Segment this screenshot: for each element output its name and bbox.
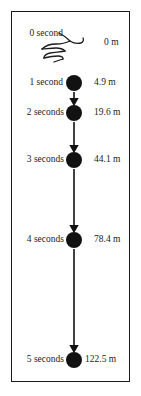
ball-marker <box>66 152 82 168</box>
ball-marker <box>66 75 82 91</box>
time-label-4: 4 seconds <box>27 235 64 245</box>
time-label-5: 5 seconds <box>27 355 64 365</box>
free-fall-diagram: 0 second 1 second 2 seconds 3 seconds 4 … <box>0 0 141 396</box>
distance-label-4: 78.4 m <box>94 235 120 245</box>
ball-marker <box>66 352 82 368</box>
diagram-frame <box>11 11 130 382</box>
distance-label-2: 19.6 m <box>94 108 120 118</box>
distance-label-3: 44.1 m <box>94 155 120 165</box>
ball-marker <box>66 232 82 248</box>
distance-label-1: 4.9 m <box>94 78 116 88</box>
time-label-3: 3 seconds <box>27 155 64 165</box>
distance-label-5: 122.5 m <box>85 355 116 365</box>
time-label-0: 0 second <box>29 29 63 39</box>
ball-marker <box>66 105 82 121</box>
time-label-1: 1 second <box>29 78 63 88</box>
distance-label-0: 0 m <box>104 38 119 48</box>
time-label-2: 2 seconds <box>27 108 64 118</box>
